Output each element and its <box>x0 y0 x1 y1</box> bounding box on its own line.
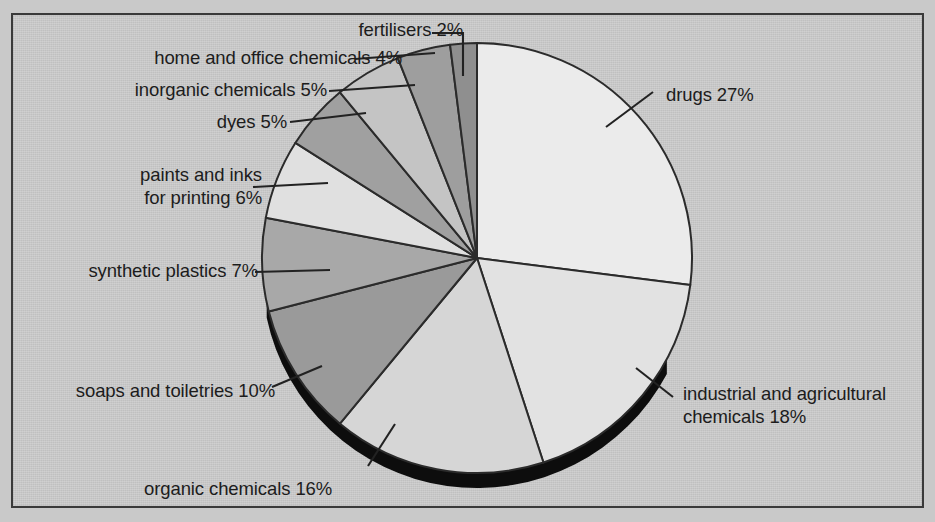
callout-label-inorganic-chemicals: inorganic chemicals 5% <box>135 78 327 101</box>
callout-text-drugs: drugs 27% <box>666 84 754 105</box>
callout-label-paints-and-inks: paints and inks for printing 6% <box>140 163 262 209</box>
callout-text-industrial-line2: chemicals 18% <box>683 405 886 428</box>
callout-text-synthetic-plastics: synthetic plastics 7% <box>88 260 258 281</box>
callout-text-organic-chemicals: organic chemicals 16% <box>144 478 332 499</box>
callout-label-home-and-office-chemicals: home and office chemicals 4% <box>154 46 402 69</box>
pie-slice-drugs <box>477 43 692 285</box>
callout-text-home-and-office-chemicals: home and office chemicals 4% <box>154 47 402 68</box>
callout-label-fertilisers: fertilisers 2% <box>359 18 464 41</box>
callout-text-paints-line1: paints and inks <box>140 163 262 186</box>
callout-text-inorganic-chemicals: inorganic chemicals 5% <box>135 79 327 100</box>
callout-label-synthetic-plastics: synthetic plastics 7% <box>88 259 258 282</box>
callout-label-organic-chemicals: organic chemicals 16% <box>144 477 332 500</box>
callout-text-paints-line2: for printing 6% <box>140 186 262 209</box>
callout-label-industrial-and-agricultural-chemicals: industrial and agricultural chemicals 18… <box>683 382 886 428</box>
callout-text-dyes: dyes 5% <box>217 111 287 132</box>
callout-label-dyes: dyes 5% <box>217 110 287 133</box>
callout-text-industrial-line1: industrial and agricultural <box>683 382 886 405</box>
pie-slices <box>262 43 692 473</box>
callout-label-drugs: drugs 27% <box>666 83 754 106</box>
callout-label-soaps-and-toiletries: soaps and toiletries 10% <box>76 379 275 402</box>
pie-chart-figure: fertilisers 2% home and office chemicals… <box>0 0 935 522</box>
callout-text-fertilisers: fertilisers 2% <box>359 19 464 40</box>
callout-text-soaps-and-toiletries: soaps and toiletries 10% <box>76 380 275 401</box>
